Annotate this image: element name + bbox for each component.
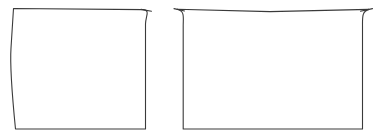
line-drawing-svg [0,0,387,140]
drawing-canvas [0,0,387,140]
right-panel-shape[interactable] [177,9,369,129]
left-panel-shape[interactable] [11,9,148,130]
